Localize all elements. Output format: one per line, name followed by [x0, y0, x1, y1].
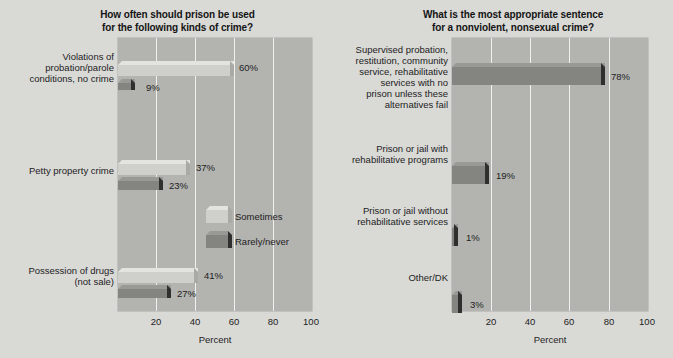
bar-prison-with-rehab-19 [452, 166, 489, 184]
x-axis-labels-left: 20 40 60 80 100 [118, 316, 312, 330]
bar-petty-rarely-never [118, 181, 163, 190]
panel-left-title: How often should prison be used for the … [0, 9, 333, 34]
panel-right-title: What is the most appropriate sentence fo… [333, 9, 673, 34]
swatch-front-face [206, 235, 228, 248]
bar-front-face [452, 166, 489, 184]
category-label-prison-without-rehab: Prison or jail without rehabilitative se… [334, 205, 448, 227]
gridline-60 [234, 38, 235, 311]
bar-front-face [452, 67, 605, 85]
category-label-petty-property: Petty property crime [4, 165, 114, 176]
bar-front-face [118, 272, 198, 283]
x-tick-80: 80 [268, 316, 279, 327]
x-tick-20: 20 [486, 316, 497, 327]
swatch-side-face [228, 206, 232, 223]
bar-front-face [118, 289, 171, 298]
plot-area-right: 78% 19% 1% 3% [452, 38, 648, 311]
bar-value-9: 9% [146, 82, 160, 93]
gridline-80 [273, 38, 274, 311]
gridline-80 [609, 38, 610, 311]
swatch-front-face [206, 210, 228, 223]
bar-value-41: 41% [204, 270, 223, 281]
legend-label-sometimes: Sometimes [235, 211, 283, 222]
bar-front-face [118, 164, 190, 175]
bar-value-23: 23% [169, 180, 188, 191]
bar-value-37: 37% [196, 162, 215, 173]
bar-violations-sometimes [118, 65, 234, 76]
bar-petty-sometimes [118, 164, 190, 175]
bar-value-1: 1% [466, 232, 480, 243]
x-tick-100: 100 [303, 316, 319, 327]
legend-swatch-rarely-never [206, 235, 228, 248]
swatch-side-face [228, 231, 232, 248]
category-label-violations: Violations of probation/parole condition… [4, 51, 114, 84]
bar-supervised-probation-78 [452, 67, 605, 85]
x-tick-20: 20 [151, 316, 162, 327]
chart-panel-right: What is the most appropriate sentence fo… [333, 0, 673, 358]
bar-other-dk-3 [452, 295, 462, 313]
chart-page: How often should prison be used for the … [0, 0, 673, 358]
bar-value-27: 27% [177, 288, 196, 299]
bar-front-face [118, 181, 163, 190]
chart-panel-left: How often should prison be used for the … [0, 0, 333, 358]
x-tick-80: 80 [604, 316, 615, 327]
x-tick-60: 60 [229, 316, 240, 327]
x-axis-title-left: Percent [199, 334, 232, 345]
x-tick-60: 60 [564, 316, 575, 327]
bar-value-19: 19% [496, 170, 515, 181]
x-tick-40: 40 [525, 316, 536, 327]
legend-item-sometimes: Sometimes [206, 210, 283, 223]
bar-value-60: 60% [239, 62, 258, 73]
x-tick-100: 100 [639, 316, 655, 327]
bar-value-3: 3% [470, 299, 484, 310]
category-label-supervised-probation: Supervised probation, restitution, commu… [334, 44, 448, 110]
legend-label-rarely-never: Rarely/never [235, 236, 289, 247]
category-label-other-dk: Other/DK [334, 272, 448, 283]
category-label-possession-drugs: Possession of drugs (not sale) [4, 265, 114, 287]
bar-front-face [118, 65, 234, 76]
bar-drugs-rarely-never [118, 289, 171, 298]
x-axis-labels-right: 20 40 60 80 100 [452, 316, 648, 330]
x-axis-title-right: Percent [534, 334, 567, 345]
legend-swatch-sometimes [206, 210, 228, 223]
bar-value-78: 78% [611, 71, 630, 82]
x-tick-40: 40 [190, 316, 201, 327]
plot-area-left: 60% 9% 37% 23% [118, 38, 312, 311]
legend-item-rarely-never: Rarely/never [206, 235, 289, 248]
bar-drugs-sometimes [118, 272, 198, 283]
category-label-prison-with-rehab: Prison or jail with rehabilitative progr… [334, 143, 448, 165]
bar-violations-rarely-never [118, 83, 135, 90]
bar-prison-without-rehab-1 [452, 228, 458, 246]
